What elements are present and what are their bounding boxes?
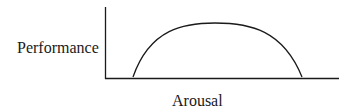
y-axis-label: Performance: [17, 38, 99, 58]
x-axis-label: Arousal: [172, 91, 223, 111]
performance-curve: [133, 23, 302, 77]
